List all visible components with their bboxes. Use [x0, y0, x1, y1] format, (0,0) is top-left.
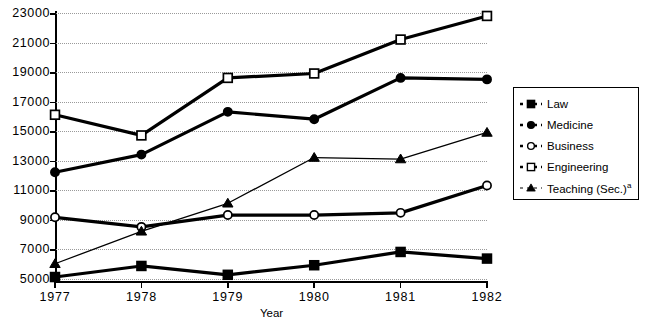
legend-item-engineering: Engineering: [520, 160, 608, 174]
x-tick-mark: [141, 281, 143, 288]
series-line: [55, 186, 487, 227]
x-tick-mark: [227, 281, 229, 288]
legend-marker-filled-triangle-icon: [520, 181, 542, 195]
y-tick-label: 9000: [0, 213, 50, 227]
data-point: [310, 115, 318, 123]
data-point: [51, 110, 60, 119]
data-point: [223, 74, 232, 83]
x-tick-label: 1979: [193, 290, 263, 304]
legend-item-teaching-sec: Teaching (Sec.)a: [520, 181, 631, 195]
data-point: [50, 259, 60, 268]
x-axis-title: Year: [55, 307, 488, 319]
legend-marker-filled-square-icon: [520, 97, 542, 111]
series-line: [55, 78, 487, 172]
data-point: [137, 131, 146, 140]
y-tick-label: 19000: [0, 65, 50, 79]
series-medicine: [51, 74, 491, 177]
series-law: [51, 248, 492, 282]
x-tick-mark: [486, 281, 488, 288]
data-point: [483, 12, 492, 21]
x-tick-label: 1981: [366, 290, 436, 304]
series-line: [55, 252, 487, 277]
data-point: [397, 74, 405, 82]
y-tick-label: 13000: [0, 154, 50, 168]
series-line: [55, 132, 487, 263]
data-point: [223, 270, 232, 279]
data-point: [482, 127, 492, 136]
data-point: [224, 211, 232, 219]
x-tick-label: 1977: [20, 290, 90, 304]
data-point: [51, 168, 59, 176]
y-tick-label: 7000: [0, 242, 50, 256]
data-point: [137, 151, 145, 159]
data-point: [310, 211, 318, 219]
data-point: [310, 261, 319, 270]
legend-label: Business: [547, 140, 594, 152]
legend-item-business: Business: [520, 139, 594, 153]
legend-label: Engineering: [547, 161, 608, 173]
x-tick-label: 1978: [106, 290, 176, 304]
data-point: [397, 209, 405, 217]
data-point: [137, 262, 146, 271]
y-tick-label: 21000: [0, 36, 50, 50]
data-point: [51, 213, 59, 221]
series-business: [51, 181, 491, 231]
legend-label: Law: [547, 98, 568, 110]
legend-marker-open-circle-icon: [520, 139, 542, 153]
chart-root: 197719781979198019811982 Year LawMedicin…: [0, 0, 647, 324]
x-tick-label: 1982: [452, 290, 522, 304]
data-point: [224, 108, 232, 116]
legend-item-law: Law: [520, 97, 568, 111]
legend: LawMedicineBusinessEngineeringTeaching (…: [513, 87, 639, 200]
series-engineering: [51, 12, 492, 140]
data-point: [223, 198, 233, 207]
data-point: [310, 69, 319, 78]
data-point: [396, 248, 405, 257]
series-line: [55, 16, 487, 135]
data-point: [483, 75, 491, 83]
legend-marker-filled-circle-icon: [520, 118, 542, 132]
x-tick-label: 1980: [279, 290, 349, 304]
series-teaching-sec: [50, 127, 492, 267]
data-point: [309, 153, 319, 162]
legend-item-medicine: Medicine: [520, 118, 593, 132]
y-tick-label: 5000: [0, 272, 50, 286]
legend-label: Teaching (Sec.)a: [547, 181, 631, 195]
y-tick-label: 11000: [0, 183, 50, 197]
data-point: [483, 181, 491, 189]
data-point: [396, 35, 405, 44]
y-tick-label: 23000: [0, 6, 50, 20]
y-tick-label: 15000: [0, 124, 50, 138]
x-tick-mark: [400, 281, 402, 288]
legend-label: Medicine: [547, 119, 593, 131]
legend-marker-open-square-icon: [520, 160, 542, 174]
x-tick-mark: [313, 281, 315, 288]
y-tick-label: 17000: [0, 95, 50, 109]
data-point: [483, 254, 492, 263]
x-tick-mark: [54, 281, 56, 288]
